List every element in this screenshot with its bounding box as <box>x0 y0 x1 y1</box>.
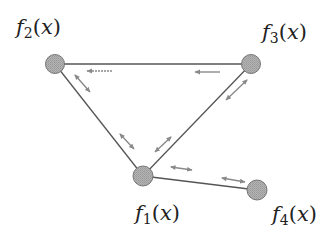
node-f4 <box>247 180 267 200</box>
arrows-group <box>75 71 247 182</box>
label-f1-arg: x <box>160 201 172 225</box>
label-f2-arg: x <box>41 15 53 39</box>
node-f3 <box>242 55 261 74</box>
label-f3-close: ) <box>299 20 307 44</box>
label-f3-open: ( <box>279 20 287 44</box>
edge-f3-f1 <box>143 64 251 176</box>
double-arrow-icon <box>75 75 90 92</box>
label-f3-arg: x <box>287 20 299 44</box>
edge-f2-f1 <box>55 64 143 176</box>
label-f4-arg: x <box>297 202 309 226</box>
label-f1-index: 1 <box>143 211 152 227</box>
label-f1-open: ( <box>152 201 160 225</box>
label-f4: f4(x) <box>272 204 317 225</box>
label-f1-close: ) <box>172 201 180 225</box>
label-f4-index: 4 <box>280 212 289 228</box>
double-arrow-icon <box>120 134 134 149</box>
label-f4-open: ( <box>289 202 297 226</box>
label-f2-close: ) <box>53 15 61 39</box>
label-f3-index: 3 <box>270 30 279 46</box>
label-f3-func: f <box>262 20 270 44</box>
edge-f1-f4 <box>143 176 257 190</box>
double-arrow-icon <box>171 167 192 170</box>
label-f1: f1(x) <box>135 203 180 224</box>
node-f2 <box>46 55 65 74</box>
label-f2: f2(x) <box>16 17 61 38</box>
label-f4-func: f <box>272 202 280 226</box>
node-f1 <box>133 166 153 186</box>
label-f2-index: 2 <box>24 25 33 41</box>
edges-group <box>55 64 257 190</box>
label-f4-close: ) <box>309 202 317 226</box>
label-f2-open: ( <box>33 15 41 39</box>
double-arrow-icon <box>222 178 245 182</box>
label-f1-func: f <box>135 201 143 225</box>
label-f2-func: f <box>16 15 24 39</box>
label-f3: f3(x) <box>262 22 307 43</box>
double-arrow-icon <box>226 80 247 100</box>
